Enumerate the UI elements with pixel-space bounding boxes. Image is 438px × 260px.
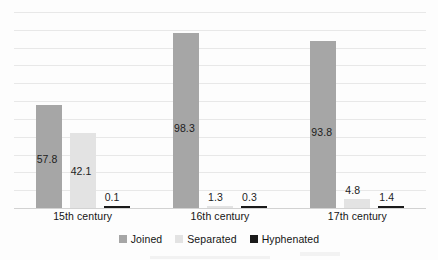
bar-chart: 57.842.10.198.31.30.393.84.81.4 15th cen… bbox=[0, 0, 438, 260]
category-label: 16th century bbox=[151, 210, 288, 222]
category-label: 15th century bbox=[14, 210, 151, 222]
bar-rect bbox=[310, 41, 336, 208]
legend-label: Joined bbox=[131, 233, 163, 245]
bar-rect bbox=[378, 206, 404, 208]
bar-hyphenated: 1.4 bbox=[378, 12, 404, 208]
bar-separated: 1.3 bbox=[207, 12, 233, 208]
bar-rect bbox=[207, 206, 233, 208]
scan-artifact bbox=[150, 256, 270, 259]
category-label: 17th century bbox=[289, 210, 426, 222]
legend-item-hyphenated[interactable]: Hyphenated bbox=[250, 233, 320, 245]
bar-group: 57.842.10.1 bbox=[14, 12, 151, 208]
bar-group: 98.31.30.3 bbox=[151, 12, 288, 208]
bar-hyphenated: 0.1 bbox=[104, 12, 130, 208]
bar-groups-layer: 57.842.10.198.31.30.393.84.81.4 bbox=[14, 12, 426, 208]
scan-artifact bbox=[300, 252, 340, 256]
bar-separated: 4.8 bbox=[344, 12, 370, 208]
legend-label: Separated bbox=[187, 233, 236, 245]
bar-value-label: 1.4 bbox=[379, 191, 438, 203]
separated-swatch bbox=[175, 235, 183, 243]
bar-group: 93.84.81.4 bbox=[289, 12, 426, 208]
joined-swatch bbox=[119, 235, 127, 243]
legend-item-joined[interactable]: Joined bbox=[119, 233, 163, 245]
bar-rect bbox=[104, 206, 130, 208]
bar-rect bbox=[241, 206, 267, 208]
category-axis: 15th century16th century17th century bbox=[14, 210, 426, 228]
bar-joined: 93.8 bbox=[310, 12, 336, 208]
bar-rect bbox=[173, 33, 199, 208]
bar-separated: 42.1 bbox=[70, 12, 96, 208]
legend-item-separated[interactable]: Separated bbox=[175, 233, 236, 245]
bar-hyphenated: 0.3 bbox=[241, 12, 267, 208]
bar-rect bbox=[344, 199, 370, 208]
axis-baseline bbox=[14, 208, 426, 209]
bar-joined: 98.3 bbox=[173, 12, 199, 208]
hyphenated-swatch bbox=[250, 235, 258, 243]
bar-joined: 57.8 bbox=[36, 12, 62, 208]
chart-legend: JoinedSeparatedHyphenated bbox=[0, 233, 438, 245]
legend-label: Hyphenated bbox=[262, 233, 320, 245]
